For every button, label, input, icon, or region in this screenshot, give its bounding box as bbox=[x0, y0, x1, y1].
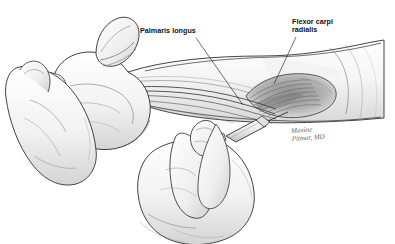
illustration-artwork bbox=[0, 0, 395, 244]
annotation-label-flexor-carpi-radialis: Flexor carpi radialis bbox=[292, 18, 333, 35]
anatomical-figure: Palmaris longus Flexor carpi radialis Ma… bbox=[0, 0, 395, 244]
annotation-label-palmaris-longus: Palmaris longus bbox=[140, 27, 196, 35]
artist-signature: Maxine Pitmar, MD bbox=[291, 126, 325, 144]
